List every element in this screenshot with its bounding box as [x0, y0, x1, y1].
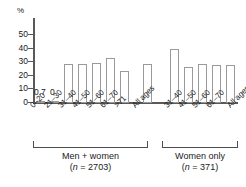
- y-tick-label-40: 40: [6, 44, 28, 53]
- y-tick-label-10: 10: [6, 84, 28, 93]
- y-tick-label-0: 0: [6, 98, 28, 107]
- group-bracket-women-only: [162, 141, 238, 148]
- group-n-rest-men-women: = 2703): [78, 162, 111, 172]
- group-n-men-women: (n = 2703): [33, 162, 148, 173]
- group-n-rest-women-only: = 371): [190, 162, 218, 172]
- y-tick-label-20: 20: [6, 71, 28, 80]
- y-tick-label-30: 30: [6, 57, 28, 66]
- group-name-men-women: Men + women: [62, 151, 119, 161]
- bar-chart-figure: % 50 40 30 20 10 0 0.7 0 0–20 21–30 31–4…: [0, 0, 246, 187]
- group-name-women-only: Women only: [175, 151, 225, 161]
- group-bracket-men-women: [33, 141, 148, 148]
- y-tick-label-50: 50: [6, 30, 28, 39]
- y-axis-unit-label: %: [17, 7, 24, 15]
- group-n-women-only: (n = 371): [162, 162, 238, 173]
- group-caption-men-women: Men + women (n = 2703): [33, 151, 148, 173]
- group-caption-women-only: Women only (n = 371): [162, 151, 238, 173]
